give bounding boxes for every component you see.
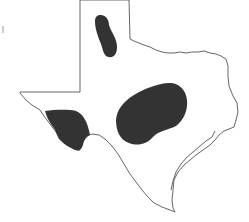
- texas-map: [0, 0, 249, 222]
